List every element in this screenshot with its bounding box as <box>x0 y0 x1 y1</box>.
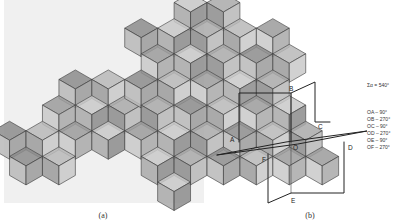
caption-b: (b) <box>305 211 315 220</box>
angle-OD: OD – 270° <box>367 130 390 136</box>
vertex-label-O: O <box>293 144 298 151</box>
angle-OE: OE – 90° <box>367 137 387 143</box>
angle-list: OA – 90° OB – 270° OC – 90° OD – 270° OE… <box>367 109 390 150</box>
vertex-label-D: D <box>348 144 353 151</box>
figure: (a) A B C D E F O Σα = 540° OA – 90° OB … <box>0 0 410 224</box>
vertex-label-B: B <box>289 85 293 92</box>
caption-a: (a) <box>99 211 108 220</box>
vertex-label-A: A <box>230 136 235 143</box>
vertex-label-E: E <box>291 197 296 204</box>
vertex-label-C: C <box>318 123 323 130</box>
panel-a: (a) <box>0 0 339 220</box>
angle-OB: OB – 270° <box>367 116 390 122</box>
angle-OF: OF – 270° <box>367 144 390 150</box>
angle-sum: Σα = 540° <box>367 82 389 88</box>
angle-OC: OC – 90° <box>367 123 388 129</box>
angle-OA: OA – 90° <box>367 109 387 115</box>
vertex-label-F: F <box>262 156 266 163</box>
